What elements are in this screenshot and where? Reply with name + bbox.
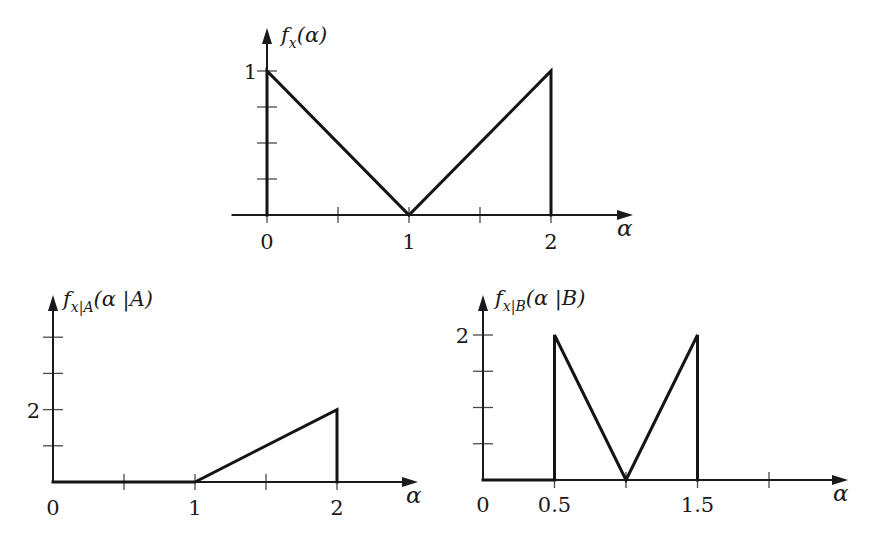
plot-fx-given-a: 0122fx|A(α |A)α xyxy=(27,287,422,520)
y-axis-title: fx(α) xyxy=(279,23,327,51)
x-tick-label: 1.5 xyxy=(681,493,714,517)
y-axis-title: fx|A(α |A) xyxy=(61,287,153,316)
density-curve xyxy=(267,71,551,215)
y-axis-title-subscript: x|A xyxy=(71,299,94,316)
x-tick-label: 0.5 xyxy=(538,493,571,517)
y-axis-arrow-icon xyxy=(48,295,58,311)
figure-canvas: 0121fx(α)α 0122fx|A(α |A)α 00.51.52fx|B(… xyxy=(0,0,873,542)
x-tick-label: 2 xyxy=(330,496,343,520)
y-axis-title-args: (α |B) xyxy=(526,286,586,311)
y-axis-arrow-icon xyxy=(262,28,272,44)
density-curve xyxy=(53,410,337,482)
plot-fx: 0121fx(α)α xyxy=(232,23,634,254)
x-tick-label: 1 xyxy=(402,230,415,254)
y-axis-arrow-icon xyxy=(478,295,488,311)
y-tick-label: 2 xyxy=(456,324,469,348)
y-tick-label: 1 xyxy=(244,60,257,84)
y-axis-title: fx|B(α |B) xyxy=(493,286,585,315)
x-tick-label: 2 xyxy=(544,230,557,254)
plot-fx-given-b: 00.51.52fx|B(α |B)α xyxy=(456,286,849,517)
x-tick-label: 0 xyxy=(476,493,489,517)
y-tick-label: 2 xyxy=(27,399,40,423)
x-axis-title: α xyxy=(833,480,849,506)
y-axis-title-subscript: x|B xyxy=(503,298,526,315)
y-axis-title-args: (α |A) xyxy=(94,287,153,312)
x-tick-label: 1 xyxy=(188,496,201,520)
y-axis-title-subscript: x xyxy=(289,35,297,51)
density-curve xyxy=(483,335,698,480)
y-axis-title-args: (α) xyxy=(297,23,328,47)
x-tick-label: 0 xyxy=(260,230,273,254)
x-tick-label: 0 xyxy=(46,496,59,520)
x-axis-title: α xyxy=(406,482,422,508)
x-axis-title: α xyxy=(617,215,633,241)
